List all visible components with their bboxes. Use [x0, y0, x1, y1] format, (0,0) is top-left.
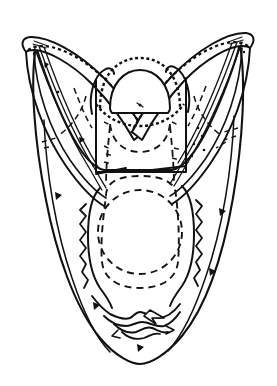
anatomical-line-drawing — [0, 0, 277, 386]
figure-canvas: Skull in palatal/ventral view — [0, 0, 277, 386]
